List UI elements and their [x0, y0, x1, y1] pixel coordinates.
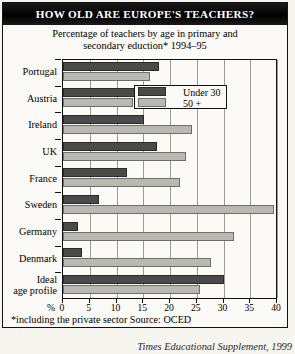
bar-under-30: [63, 248, 82, 257]
bar-under-30: [63, 168, 127, 177]
bar-under-30: [63, 142, 157, 151]
value-tick-label-40: 40: [271, 302, 281, 313]
category-tick: [55, 59, 61, 60]
value-tick-label-25: 25: [191, 302, 201, 313]
chart-credit: Times Educational Supplement, 1999: [137, 341, 292, 352]
value-tick-label-10: 10: [111, 302, 121, 313]
percent-axis-unit: %: [47, 302, 55, 313]
category-tick: [55, 272, 61, 273]
bar-group: [63, 168, 276, 195]
category-label: UK: [42, 147, 57, 158]
category-label-wrap: Germany: [19, 227, 57, 238]
category-label: Denmark: [19, 254, 57, 265]
legend-label-under-30: Under 30: [183, 88, 221, 98]
category-tick: [55, 166, 61, 167]
bar-group: [63, 142, 276, 169]
chart-subtitle: Percentage of teachers by age in primary…: [3, 28, 287, 53]
gridline-40: [277, 60, 278, 298]
category-tick: [55, 219, 61, 220]
bar-group: [63, 195, 276, 222]
bar-50-plus: [63, 232, 234, 241]
category-label: Austria: [27, 94, 57, 105]
bar-group: [63, 275, 276, 302]
bar-group: [63, 115, 276, 142]
category-tick: [55, 192, 61, 193]
category-label-wrap: Portugal: [22, 67, 57, 78]
category-label-line-2: age profile: [13, 286, 57, 297]
category-label: Germany: [19, 227, 57, 238]
chart-figure: HOW OLD ARE EUROPE'S TEACHERS? Percentag…: [0, 0, 295, 354]
value-tick-label-35: 35: [244, 302, 254, 313]
bar-under-30: [63, 195, 99, 204]
category-tick: [55, 112, 61, 113]
bar-under-30: [63, 222, 78, 231]
value-tick-label-0: 0: [60, 302, 65, 313]
category-label-wrap: Austria: [27, 94, 57, 105]
bar-50-plus: [63, 72, 150, 81]
chart-frame: HOW OLD ARE EUROPE'S TEACHERS? Percentag…: [2, 2, 288, 328]
category-tick: [55, 139, 61, 140]
chart-subtitle-line-1: Percentage of teachers by age in primary…: [3, 28, 287, 40]
chart-footnote: *including the private sector Source: OC…: [11, 314, 191, 325]
category-label: France: [29, 174, 57, 185]
value-tick-label-20: 20: [164, 302, 174, 313]
bar-under-30: [63, 275, 224, 284]
category-label: Ireland: [28, 120, 57, 131]
category-tick: [55, 246, 61, 247]
category-label-wrap: Sweden: [25, 200, 57, 211]
legend-swatch-under-30: [138, 87, 166, 96]
chart-subtitle-line-2: secondary eduction* 1994–95: [3, 40, 287, 52]
category-label-wrap: UK: [42, 147, 57, 158]
bar-50-plus: [63, 205, 274, 214]
chart-title-bar: HOW OLD ARE EUROPE'S TEACHERS?: [3, 3, 287, 25]
bar-under-30: [63, 62, 159, 71]
category-axis-labels: PortugalAustriaIrelandUKFranceSwedenGerm…: [3, 59, 60, 299]
category-label-wrap: Denmark: [19, 254, 57, 265]
value-tick-label-5: 5: [86, 302, 91, 313]
bar-group: [63, 248, 276, 275]
bar-50-plus: [63, 125, 192, 134]
category-label-wrap: France: [29, 174, 57, 185]
category-label-wrap: Ireland: [28, 120, 57, 131]
bar-50-plus: [63, 258, 211, 267]
bar-under-30: [63, 115, 144, 124]
legend-swatch-50-plus: [138, 98, 166, 107]
chart-legend: Under 30 50 +: [134, 85, 227, 109]
bar-50-plus: [63, 152, 186, 161]
category-label-wrap: Idealage profile: [13, 275, 57, 296]
page-title: HOW OLD ARE EUROPE'S TEACHERS?: [36, 8, 255, 20]
category-label: Sweden: [25, 200, 57, 211]
bar-50-plus: [63, 98, 133, 107]
bar-50-plus: [63, 178, 180, 187]
value-tick-label-15: 15: [137, 302, 147, 313]
category-label: Portugal: [22, 67, 57, 78]
category-tick: [55, 86, 61, 87]
value-tick-label-30: 30: [218, 302, 228, 313]
value-axis: 0510152025303540: [62, 299, 277, 313]
bar-group: [63, 222, 276, 249]
bar-50-plus: [63, 285, 200, 294]
legend-label-50-plus: 50 +: [183, 99, 201, 109]
